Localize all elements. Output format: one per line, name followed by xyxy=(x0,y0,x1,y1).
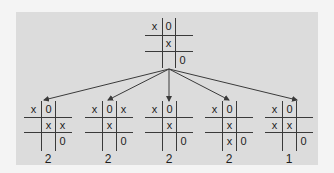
cell-r2c2: 0 xyxy=(297,136,310,147)
cell-r1c1: x xyxy=(223,120,236,131)
child-board-1: x 0 x x 0 xyxy=(24,101,72,151)
grid-line xyxy=(265,132,313,133)
cell-r0c1: 0 xyxy=(283,104,296,115)
cell-r0c0: x xyxy=(208,104,221,115)
cell-r1c1: x xyxy=(103,120,116,131)
cell-r0c1: 0 xyxy=(103,104,116,115)
grid-line xyxy=(85,117,133,118)
cell-r0c0: x xyxy=(27,104,40,115)
cell-r2c2: 0 xyxy=(56,136,69,147)
cell-r1c2: x xyxy=(56,120,69,131)
cell-r2c1: x xyxy=(223,136,236,147)
grid-line xyxy=(145,117,193,118)
grid-line xyxy=(85,132,133,133)
cell-r2c2: 0 xyxy=(237,136,250,147)
child-board-3: x 0 x 0 xyxy=(145,101,193,151)
child-score-1: 2 xyxy=(38,153,58,165)
grid-line xyxy=(24,117,72,118)
grid-line xyxy=(205,117,253,118)
cell-r1c0: x xyxy=(268,120,281,131)
cell-r1c1: x xyxy=(163,120,176,131)
grid-line xyxy=(145,35,193,36)
grid-line xyxy=(145,132,193,133)
cell-r1c1: x xyxy=(162,38,175,49)
cell-r0c2: x xyxy=(117,104,130,115)
cell-r0c0: x xyxy=(148,104,161,115)
cell-r1c1: x xyxy=(283,120,296,131)
grid-line xyxy=(24,132,72,133)
child-score-3: 2 xyxy=(159,153,179,165)
cell-r0c1: 0 xyxy=(162,21,175,32)
root-board: x 0 x 0 xyxy=(145,18,193,68)
cell-r0c1: 0 xyxy=(163,104,176,115)
cell-r0c0: x xyxy=(148,21,161,32)
cell-r0c1: 0 xyxy=(223,104,236,115)
child-score-5: 1 xyxy=(279,153,299,165)
cell-r1c1: x xyxy=(42,120,55,131)
grid-line xyxy=(145,51,193,52)
cell-r2c2: 0 xyxy=(177,136,190,147)
cell-r0c1: 0 xyxy=(42,104,55,115)
grid-line xyxy=(205,132,253,133)
cell-r0c0: x xyxy=(88,104,101,115)
cell-r0c0: x xyxy=(268,104,281,115)
grid-line xyxy=(265,117,313,118)
child-board-5: x 0 x x 0 xyxy=(265,101,313,151)
child-board-2: x 0 x x 0 xyxy=(85,101,133,151)
child-score-4: 2 xyxy=(219,153,239,165)
cell-r2c2: 0 xyxy=(176,55,189,66)
child-score-2: 2 xyxy=(98,153,118,165)
cell-r2c2: 0 xyxy=(117,136,130,147)
child-board-4: x 0 x x 0 xyxy=(205,101,253,151)
